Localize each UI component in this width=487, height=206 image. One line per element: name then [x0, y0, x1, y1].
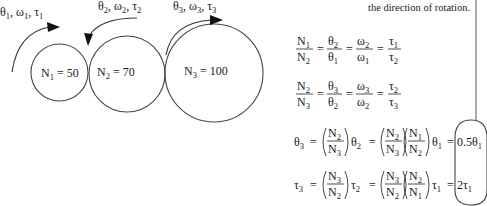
svg-text:N3: N3: [328, 142, 341, 158]
svg-text:N2: N2: [386, 185, 399, 201]
svg-text:N1: N1: [409, 126, 422, 142]
svg-text:τ2: τ2: [351, 178, 360, 194]
rotation-label-2: θ2, ω2, τ2: [98, 0, 141, 15]
svg-text:τ1: τ1: [389, 34, 398, 50]
svg-text:τ2: τ2: [389, 50, 398, 66]
svg-text:N3= 100: N3= 100: [184, 64, 228, 80]
svg-text:N3: N3: [328, 169, 341, 185]
svg-text:=: =: [317, 42, 324, 56]
equation-theta3: θ3 = N2 N3 θ2 = N2 N3 N1 N2 θ1 = 0.5θ1: [294, 126, 482, 158]
tau3-result: 2τ1: [457, 178, 472, 194]
equation-ratio-23: N2 N3 = θ3 θ2 = ω3 ω2 = τ2 τ3: [296, 79, 401, 111]
rotation-arrow-1: [12, 22, 60, 72]
svg-text:ω2: ω2: [357, 95, 369, 111]
svg-text:N2: N2: [297, 79, 310, 95]
gear-2-teeth: = 70: [113, 65, 135, 79]
svg-text:N3: N3: [297, 95, 310, 111]
svg-text:N3: N3: [386, 142, 399, 158]
svg-text:θ3: θ3: [328, 79, 338, 95]
gear-1-label: N: [41, 66, 50, 80]
rotation-arrow-2: [84, 18, 137, 46]
rotation-label-3: θ3, ω3, τ3: [173, 0, 216, 15]
svg-text:N2: N2: [409, 169, 422, 185]
svg-text:θ1: θ1: [328, 50, 338, 66]
gear-2-label: N: [97, 65, 106, 79]
svg-text:N1= 50: N1= 50: [41, 66, 79, 82]
svg-text:θ2: θ2: [328, 34, 338, 50]
gear-1: N1= 50: [31, 44, 88, 101]
svg-text:=: =: [369, 135, 376, 149]
svg-text:N2: N2: [328, 126, 341, 142]
gear-3-label: N: [184, 64, 193, 78]
svg-text:N2: N2: [297, 50, 310, 66]
svg-text:=: =: [447, 135, 454, 149]
svg-text:θ2: θ2: [328, 95, 338, 111]
callout-note-text: the direction of rotation.: [368, 2, 470, 13]
svg-text:θ2: θ2: [351, 135, 361, 151]
svg-text:=: =: [377, 42, 384, 56]
svg-text:N3: N3: [386, 169, 399, 185]
svg-text:τ2: τ2: [389, 79, 398, 95]
arrow-2-curve: [89, 18, 137, 36]
svg-text:N2: N2: [328, 185, 341, 201]
svg-text:N2: N2: [409, 142, 422, 158]
svg-text:=: =: [369, 178, 376, 192]
svg-text:ω1: ω1: [357, 50, 369, 66]
svg-text:ω3: ω3: [357, 79, 369, 95]
svg-text:N1: N1: [409, 185, 422, 201]
gear-2: N2= 70: [89, 36, 165, 112]
arrow-right-icon: [47, 22, 60, 32]
svg-text:=: =: [310, 135, 317, 149]
gear-3: N3= 100: [165, 24, 263, 122]
svg-text:θ3: θ3: [294, 135, 304, 151]
svg-text:N2: N2: [386, 126, 399, 142]
svg-text:ω2: ω2: [357, 34, 369, 50]
theta3-result: 0.5θ1: [457, 135, 482, 151]
arrow-down-icon: [84, 33, 93, 46]
svg-text:=: =: [377, 87, 384, 101]
gear-train-diagram: the direction of rotation. N1= 50 N2= 70…: [0, 0, 487, 206]
svg-text:τ3: τ3: [294, 178, 303, 194]
rotation-label-1: θ1, ω1, τ1: [0, 5, 43, 21]
svg-text:=: =: [447, 178, 454, 192]
svg-text:N2= 70: N2= 70: [97, 65, 135, 81]
gear-1-teeth: = 50: [57, 66, 79, 80]
svg-text:τ1: τ1: [432, 178, 441, 194]
svg-text:=: =: [346, 42, 353, 56]
svg-text:τ3: τ3: [389, 95, 398, 111]
svg-text:θ1: θ1: [432, 135, 442, 151]
equation-ratio-12: N1 N2 = θ2 θ1 = ω2 ω1 = τ1 τ2: [296, 34, 401, 66]
svg-text:=: =: [310, 178, 317, 192]
gear-3-teeth: = 100: [200, 64, 228, 78]
equation-tau3: τ3 = N3 N2 τ2 = N3 N2 N2 N1 τ1 = 2τ1: [294, 169, 472, 201]
rotation-arrow-3: [166, 15, 223, 55]
svg-text:N1: N1: [297, 34, 310, 50]
svg-text:=: =: [346, 87, 353, 101]
svg-text:=: =: [317, 87, 324, 101]
arrow-right-icon: [210, 15, 223, 25]
